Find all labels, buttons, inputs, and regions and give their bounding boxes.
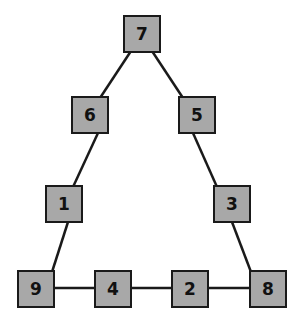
node-4: 4: [94, 270, 132, 308]
node-2: 2: [171, 270, 209, 308]
edge-3-8: [232, 222, 251, 272]
edge-1-9: [52, 222, 68, 272]
node-5: 5: [178, 96, 216, 134]
node-1: 1: [45, 185, 83, 223]
node-9: 9: [17, 270, 55, 308]
edge-6-1: [73, 133, 98, 187]
node-3: 3: [213, 185, 251, 223]
node-7: 7: [123, 15, 161, 53]
node-8: 8: [249, 270, 287, 308]
triangle-diagram: 7 6 5 1 3 9 4 2 8: [0, 0, 305, 331]
edge-7-6: [100, 51, 131, 98]
edge-7-5: [152, 51, 183, 98]
node-6: 6: [71, 96, 109, 134]
edge-5-3: [193, 133, 217, 187]
